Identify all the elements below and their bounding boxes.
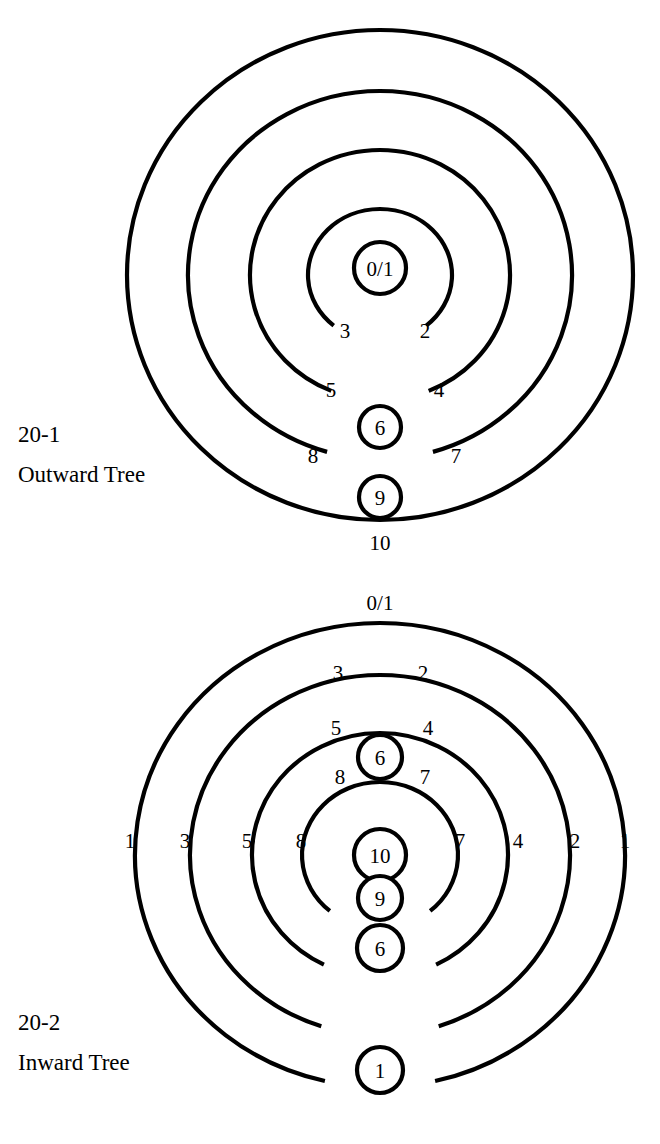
outward-tree-diagram: 325487100/16920-1Outward Tree	[0, 0, 660, 572]
inward-tree-arc-label: 7	[420, 765, 431, 789]
node-label: 0/1	[367, 257, 394, 281]
inward-tree-arc-label: 3	[333, 661, 344, 685]
inward-tree-node: 10	[354, 829, 406, 881]
inward-tree-number: 20-2	[18, 1010, 60, 1035]
inward-tree-arc-label: 5	[242, 829, 253, 853]
node-label: 6	[375, 746, 386, 770]
outward-tree-number: 20-1	[18, 422, 60, 447]
inward-tree-arc-label: 1	[620, 829, 631, 853]
inward-tree-arc-label: 5	[331, 716, 342, 740]
inward-tree-title: Inward Tree	[18, 1050, 130, 1075]
inward-tree-arc-label: 2	[570, 829, 581, 853]
inward-tree-arc-label: 7	[455, 829, 466, 853]
node-label: 9	[375, 887, 386, 911]
outward-tree-arc-label: 4	[434, 378, 445, 402]
inward-tree-arc-label: 4	[513, 829, 524, 853]
node-label: 1	[375, 1059, 386, 1083]
inward-tree-arc-label: 1	[125, 829, 136, 853]
figure-inward-tree: 0/13254871358742110696120-2Inward Tree	[0, 572, 660, 1144]
inward-tree-arc-label: 4	[423, 716, 434, 740]
outward-tree-arc-label: 8	[308, 444, 319, 468]
outward-tree-title: Outward Tree	[18, 462, 145, 487]
node-label: 6	[375, 416, 386, 440]
inward-tree-arc-label: 2	[418, 661, 429, 685]
inward-tree-arc-label: 8	[335, 765, 346, 789]
inward-tree-node: 6	[358, 735, 402, 779]
node-label: 6	[375, 937, 386, 961]
outward-tree-arc-label: 5	[326, 378, 337, 402]
outward-tree-arc-label: 10	[370, 531, 391, 555]
inward-tree-diagram: 0/13254871358742110696120-2Inward Tree	[0, 572, 660, 1144]
inward-tree-node: 1	[357, 1047, 403, 1093]
node-label: 9	[375, 486, 386, 510]
outward-tree-node: 0/1	[354, 242, 406, 294]
outward-tree-group: 325487100/16920-1Outward Tree	[18, 30, 633, 555]
inward-tree-arc-label: 0/1	[367, 591, 394, 615]
node-label: 10	[370, 844, 391, 868]
outward-tree-arc-label: 2	[420, 319, 431, 343]
outward-tree-arc-label: 3	[340, 319, 351, 343]
outward-tree-arc-label: 7	[451, 444, 462, 468]
figure-outward-tree: 325487100/16920-1Outward Tree	[0, 0, 660, 572]
inward-tree-node: 6	[357, 925, 403, 971]
inward-tree-arc-label: 8	[296, 829, 307, 853]
inward-tree-node: 9	[358, 876, 402, 920]
inward-tree-group: 0/13254871358742110696120-2Inward Tree	[18, 591, 630, 1093]
inward-tree-arc-label: 3	[180, 829, 191, 853]
outward-tree-node: 9	[359, 476, 401, 518]
outward-tree-node: 6	[359, 406, 401, 448]
